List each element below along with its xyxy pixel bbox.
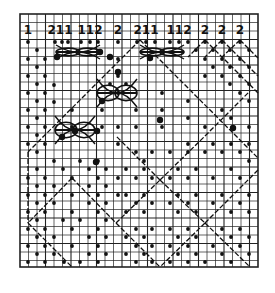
thread-line xyxy=(28,178,72,223)
pinhole-dot xyxy=(220,227,224,231)
pinhole-dot xyxy=(134,260,138,264)
pinhole-dot xyxy=(35,133,39,137)
pinhole-dot xyxy=(228,82,232,86)
pinhole-dot xyxy=(35,252,39,256)
pinhole-dot xyxy=(150,260,154,264)
pinhole-dot xyxy=(26,193,30,197)
pinhole-dot xyxy=(203,40,207,44)
pinhole-dot xyxy=(186,99,190,103)
pinhole-dot xyxy=(220,252,224,256)
pinhole-dot xyxy=(211,65,215,69)
pinhole-dot xyxy=(186,142,190,146)
pinhole-dot xyxy=(35,48,39,52)
pinhole-dot xyxy=(96,193,100,197)
pinhole-dot xyxy=(168,40,172,44)
pinhole-dot xyxy=(220,108,224,112)
pair-count-label: 112 xyxy=(77,23,102,37)
pinhole-dot xyxy=(124,82,128,86)
pair-count-label: 211 xyxy=(133,23,158,37)
pinhole-dot xyxy=(186,116,190,120)
pinhole-dot xyxy=(220,74,224,78)
pinhole-dot xyxy=(186,150,190,154)
pinhole-dot xyxy=(247,159,251,163)
pinhole-dot xyxy=(168,244,172,248)
pinhole-dot xyxy=(194,252,198,256)
pinhole-dot xyxy=(176,210,180,214)
pinhole-dot xyxy=(116,193,120,197)
pinhole-large-dot xyxy=(97,49,103,55)
pinhole-dot xyxy=(247,235,251,239)
pinhole-dot xyxy=(96,244,100,248)
pinhole-dot xyxy=(62,260,66,264)
pinhole-dot xyxy=(160,108,164,112)
pinhole-dot xyxy=(247,125,251,129)
pinhole-dot xyxy=(87,201,91,205)
pinhole-dot xyxy=(229,142,233,146)
pinhole-dot xyxy=(78,159,82,163)
pinhole-dot xyxy=(229,235,233,239)
pinhole-dot xyxy=(134,176,138,180)
pinhole-large-dot xyxy=(93,159,99,165)
pinhole-dot xyxy=(150,176,154,180)
pinhole-dot xyxy=(87,184,91,188)
pinhole-dot xyxy=(26,40,30,44)
pinhole-dot xyxy=(203,74,207,78)
pinhole-large-dot xyxy=(59,134,65,140)
pinhole-dot xyxy=(229,210,233,214)
pinhole-dot xyxy=(238,176,242,180)
pinhole-dot xyxy=(176,193,180,197)
pinhole-dot xyxy=(108,82,112,86)
pinhole-dot xyxy=(168,227,172,231)
pinhole-dot xyxy=(104,184,108,188)
pinhole-dot xyxy=(26,260,30,264)
pinhole-dot xyxy=(150,201,154,205)
pinhole-dot xyxy=(100,125,104,129)
pinhole-dot xyxy=(26,210,30,214)
pinhole-dot xyxy=(52,201,56,205)
pinhole-dot xyxy=(150,150,154,154)
pair-count-label: 2 xyxy=(218,23,226,37)
pinhole-large-dot xyxy=(115,69,121,75)
pinhole-dot xyxy=(26,108,30,112)
pinhole-dot xyxy=(104,235,108,239)
pinhole-dot xyxy=(247,193,251,197)
pinhole-dot xyxy=(144,40,148,44)
pinhole-dot xyxy=(134,201,138,205)
pinhole-dot xyxy=(247,48,251,52)
pinhole-dot xyxy=(176,235,180,239)
pinhole-dot xyxy=(35,99,39,103)
pinhole-dot xyxy=(35,167,39,171)
pinhole-dot xyxy=(35,82,39,86)
pinhole-dot xyxy=(96,260,100,264)
pinhole-dot xyxy=(194,167,198,171)
pinhole-dot xyxy=(26,57,30,61)
pinhole-dot xyxy=(26,142,30,146)
pinhole-dot xyxy=(238,244,242,248)
pinhole-dot xyxy=(142,252,146,256)
pinhole-dot xyxy=(78,260,82,264)
pinhole-dot xyxy=(194,235,198,239)
pinhole-dot xyxy=(88,40,92,44)
pinhole-dot xyxy=(52,83,56,87)
pinhole-dot xyxy=(134,244,138,248)
pinhole-dot xyxy=(79,40,83,44)
pinhole-dot xyxy=(43,227,47,231)
pinhole-dot xyxy=(43,125,47,129)
pinhole-dot xyxy=(186,244,190,248)
pinhole-dot xyxy=(26,244,30,248)
pair-count-label: 112 xyxy=(166,23,191,37)
pinhole-dot xyxy=(142,167,146,171)
pinhole-dot xyxy=(238,74,242,78)
pinhole-dot xyxy=(52,100,56,104)
pinhole-dot xyxy=(43,260,47,264)
pinhole-dot xyxy=(26,176,30,180)
pinhole-dot xyxy=(35,235,39,239)
pinhole-dot xyxy=(176,167,180,171)
pinhole-dot xyxy=(66,40,70,44)
pinhole-dot xyxy=(124,252,128,256)
pinhole-dot xyxy=(116,142,120,146)
pinhole-dot xyxy=(124,235,128,239)
pinhole-dot xyxy=(211,142,215,146)
pinhole-dot xyxy=(100,108,104,112)
pinhole-dot xyxy=(247,82,251,86)
